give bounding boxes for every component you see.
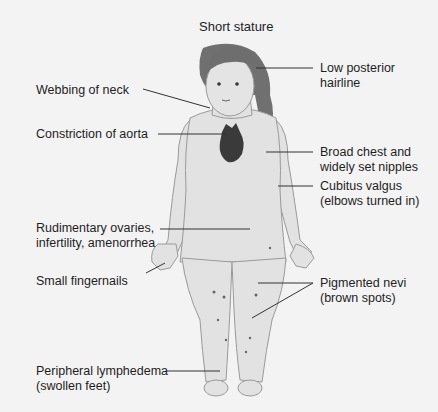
label-small-fingernails: Small fingernails — [36, 274, 128, 289]
label-broad-chest: Broad chest andwidely set nipples — [320, 145, 418, 175]
right-leg — [232, 258, 286, 382]
label-low-posterior-hairline: Low posteriorhairline — [320, 61, 395, 91]
title-short-stature: Short stature — [199, 19, 273, 34]
label-rudimentary-ovaries: Rudimentary ovaries,infertility, amenorr… — [36, 221, 155, 251]
left-leg — [182, 258, 232, 382]
label-pigmented-nevi: Pigmented nevi(brown spots) — [320, 276, 406, 306]
label-webbing-of-neck: Webbing of neck — [36, 83, 129, 98]
label-cubitus-valgus: Cubitus valgus(elbows turned in) — [320, 179, 419, 209]
label-peripheral-lymphedema: Peripheral lymphedema(swollen feet) — [36, 364, 168, 394]
left-foot — [204, 380, 228, 396]
label-constriction-of-aorta: Constriction of aorta — [36, 127, 148, 142]
left-hand — [152, 244, 178, 270]
right-foot — [238, 380, 262, 396]
